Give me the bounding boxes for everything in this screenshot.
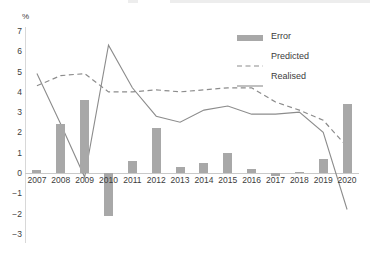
error-bar xyxy=(295,172,304,173)
dashed-line-swatch-icon xyxy=(237,55,263,61)
error-bar xyxy=(199,163,208,173)
legend-label: Predicted xyxy=(271,51,309,61)
error-bar xyxy=(128,161,137,173)
error-bar xyxy=(223,153,232,173)
y-axis-tick-label: 0 xyxy=(6,169,22,177)
y-axis-tick-label: −1 xyxy=(6,189,22,197)
x-axis-tick-label: 2008 xyxy=(49,176,73,185)
y-axis-tick-label: 2 xyxy=(6,128,22,136)
y-axis-tick-label: −3 xyxy=(6,230,22,238)
x-axis-tick-label: 2013 xyxy=(168,176,192,185)
y-axis: 76543210−1−2−3 xyxy=(2,0,22,253)
x-axis-tick-label: 2007 xyxy=(25,176,49,185)
x-axis-tick-label: 2017 xyxy=(264,176,288,185)
x-axis-tick-label: 2014 xyxy=(192,176,216,185)
error-bar xyxy=(32,170,41,173)
bar-swatch-icon xyxy=(237,35,263,41)
x-axis-tick-label: 2016 xyxy=(240,176,264,185)
error-bar xyxy=(176,167,185,173)
x-axis-tick-label: 2015 xyxy=(216,176,240,185)
error-bar xyxy=(56,124,65,173)
x-axis-tick-label: 2018 xyxy=(287,176,311,185)
x-axis-tick-label: 2012 xyxy=(144,176,168,185)
x-axis-tick-label: 2009 xyxy=(73,176,97,185)
x-axis-tick-label: 2020 xyxy=(335,176,359,185)
error-bar xyxy=(343,104,352,173)
y-axis-tick-label: 6 xyxy=(6,47,22,55)
legend-item-predicted: Predicted xyxy=(237,48,357,68)
y-axis-tick-label: 7 xyxy=(6,27,22,35)
legend-label: Error xyxy=(271,31,291,41)
error-bar xyxy=(80,100,89,173)
x-axis-tick-label: 2019 xyxy=(311,176,335,185)
legend: Error Predicted Realised xyxy=(237,28,357,88)
legend-item-realised: Realised xyxy=(237,68,357,88)
y-axis-tick-label: 1 xyxy=(6,149,22,157)
error-bar xyxy=(319,159,328,173)
legend-label: Realised xyxy=(271,71,306,81)
error-bar xyxy=(152,128,161,173)
legend-item-error: Error xyxy=(237,28,357,48)
x-axis-tick-label: 2010 xyxy=(97,176,121,185)
y-axis-tick-label: −2 xyxy=(6,210,22,218)
error-bar xyxy=(247,169,256,173)
y-axis-tick-label: 4 xyxy=(6,88,22,96)
x-axis-tick-label: 2011 xyxy=(120,176,144,185)
y-axis-tick-label: 5 xyxy=(6,68,22,76)
solid-line-swatch-icon xyxy=(237,75,263,81)
y-axis-tick-label: 3 xyxy=(6,108,22,116)
